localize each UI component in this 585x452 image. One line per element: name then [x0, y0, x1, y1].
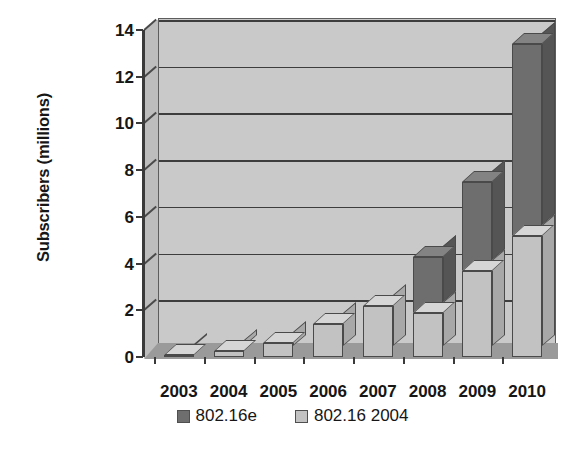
bar-segment-side	[542, 22, 555, 224]
x-tick-label: 2009	[458, 382, 496, 402]
x-axis-tick	[453, 357, 455, 364]
legend-label: 802.16e	[196, 406, 257, 426]
x-axis-tick	[254, 357, 256, 364]
bar-segment-top	[214, 340, 256, 351]
x-tick-label: 2008	[409, 382, 447, 402]
x-axis-tick	[353, 357, 355, 364]
x-axis-tick	[204, 357, 206, 364]
bar-segment-side	[443, 291, 456, 346]
bar-segment-front	[512, 236, 542, 357]
bar-segment-front	[462, 271, 492, 357]
x-tick-label: 2006	[309, 382, 347, 402]
x-axis-tick	[154, 357, 156, 364]
legend-swatch-icon	[295, 410, 308, 423]
bar-segment-top	[164, 344, 206, 355]
bar-segment-front	[164, 355, 194, 357]
x-tick-label: 2004	[210, 382, 248, 402]
bar-segment-front	[413, 313, 443, 357]
legend-item[interactable]: 802.16 2004	[295, 406, 409, 426]
bar-segment-front	[263, 343, 293, 357]
x-axis-tick	[303, 357, 305, 364]
x-axis-tick	[502, 357, 504, 364]
x-axis-tick	[403, 357, 405, 364]
chart-legend: 802.16e802.16 2004	[0, 406, 585, 426]
legend-label: 802.16 2004	[314, 406, 409, 426]
bar-segment-side	[393, 284, 406, 346]
x-tick-labels: 20032004200520062007200820092010	[0, 382, 585, 406]
chart-container: Subscribers (millions) 02468101214 20032…	[0, 0, 585, 452]
x-tick-label: 2005	[259, 382, 297, 402]
bar-segment-front	[462, 182, 492, 271]
x-tick-label: 2007	[359, 382, 397, 402]
x-tick-label: 2010	[508, 382, 546, 402]
bar-segment-front	[214, 351, 244, 357]
bar-segment-front	[512, 44, 542, 236]
bar-segment-front	[313, 324, 343, 357]
x-tick-label: 2003	[160, 382, 198, 402]
bar-segment-top	[263, 332, 305, 343]
bar-segment-side	[343, 302, 356, 346]
bar-segment-front	[363, 306, 393, 357]
legend-swatch-icon	[177, 410, 190, 423]
legend-item[interactable]: 802.16e	[177, 406, 257, 426]
